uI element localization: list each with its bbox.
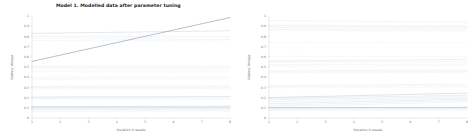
y-tick-label: 1 — [264, 14, 266, 18]
data-line — [32, 97, 230, 98]
figure-canvas: Model 1. Modelled data after parameter t… — [0, 0, 473, 140]
x-tick-label: 7 — [201, 120, 203, 124]
data-line — [269, 87, 467, 88]
data-line — [269, 30, 467, 31]
data-line — [269, 97, 467, 100]
x-tick-label: 7 — [437, 120, 439, 124]
y-tick-label: 0.7 — [24, 45, 29, 49]
data-line — [32, 31, 230, 34]
x-tick-label: 8 — [466, 120, 468, 124]
chart-panel-left: Model 1. Modelled data after parameter t… — [0, 0, 237, 140]
x-tick-label: 4 — [352, 120, 354, 124]
data-line — [269, 27, 467, 28]
data-line — [269, 29, 467, 30]
y-axis-label: Battery Voltage — [10, 55, 14, 80]
y-tick-label: 0.8 — [24, 35, 29, 39]
data-line — [269, 70, 467, 71]
data-line — [269, 86, 467, 87]
y-tick-label: 0.7 — [261, 45, 266, 49]
y-tick-label: 0.1 — [24, 106, 29, 110]
data-line — [32, 86, 230, 87]
y-tick-label: 0.2 — [261, 96, 266, 100]
data-line — [269, 26, 467, 27]
chart-panel-right: 00.10.20.30.40.50.60.70.80.9112345678Dur… — [237, 0, 473, 140]
series-group — [269, 21, 467, 111]
y-tick-label: 0.4 — [261, 75, 266, 79]
y-tick-label: 0.6 — [261, 55, 266, 59]
x-tick-label: 1 — [268, 120, 270, 124]
plot-area-left: 00.10.20.30.40.50.60.70.80.9112345678Dur… — [0, 10, 236, 140]
y-tick-label: 0.5 — [261, 65, 266, 69]
y-tick-label: 0.1 — [261, 106, 266, 110]
x-tick-label: 2 — [59, 120, 61, 124]
y-tick-label: 0.5 — [24, 65, 29, 69]
x-tick-label: 2 — [296, 120, 298, 124]
y-tick-label: 0.9 — [261, 24, 266, 28]
data-line — [269, 110, 467, 111]
data-line — [32, 40, 230, 41]
y-tick-label: 0.3 — [261, 86, 266, 90]
line-chart-right-svg: 00.10.20.30.40.50.60.70.80.9112345678Dur… — [237, 10, 473, 140]
data-line — [269, 84, 467, 85]
data-line — [269, 21, 467, 23]
x-tick-label: 6 — [172, 120, 174, 124]
chart-title: Model 1. Modelled data after parameter t… — [0, 3, 237, 9]
y-tick-label: 0.9 — [24, 24, 29, 28]
y-tick-label: 0.4 — [24, 75, 29, 79]
data-line — [32, 36, 230, 37]
x-tick-label: 3 — [88, 120, 90, 124]
plot-area-right: 00.10.20.30.40.50.60.70.80.9112345678Dur… — [237, 10, 473, 140]
data-line — [269, 61, 467, 62]
x-axis-label: Duration in weeks — [353, 128, 382, 132]
series-group — [32, 18, 230, 112]
y-tick-label: 0.3 — [24, 86, 29, 90]
x-tick-label: 8 — [229, 120, 231, 124]
x-tick-label: 5 — [381, 120, 383, 124]
y-tick-label: 0 — [27, 116, 29, 120]
y-tick-label: 1 — [27, 14, 29, 18]
line-chart-left-svg: 00.10.20.30.40.50.60.70.80.9112345678Dur… — [0, 10, 236, 140]
data-line — [32, 18, 230, 62]
data-line — [269, 64, 467, 65]
y-tick-label: 0.2 — [24, 96, 29, 100]
y-tick-label: 0.6 — [24, 55, 29, 59]
y-tick-label: 0.8 — [261, 35, 266, 39]
x-axis-label: Duration in weeks — [117, 128, 146, 132]
data-line — [269, 59, 467, 61]
y-axis-label: Battery Voltage — [247, 55, 251, 80]
x-tick-label: 1 — [31, 120, 33, 124]
x-tick-label: 4 — [116, 120, 118, 124]
y-tick-label: 0 — [264, 116, 266, 120]
x-tick-label: 3 — [324, 120, 326, 124]
data-line — [32, 77, 230, 78]
x-tick-label: 6 — [409, 120, 411, 124]
x-tick-label: 5 — [144, 120, 146, 124]
